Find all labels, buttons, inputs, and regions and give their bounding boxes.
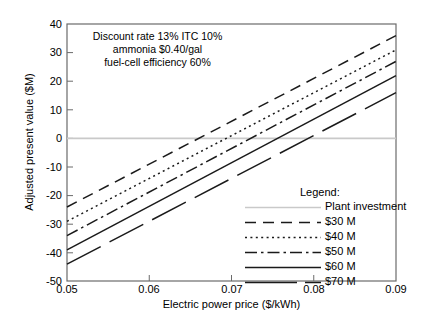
y-tick-marks [67,53,73,253]
legend-label: $50 M [325,245,356,257]
plot-frame [67,24,396,281]
legend-label: Plant investment [325,200,406,212]
legend-label: $70 M [325,275,356,287]
legend-label: $30 M [325,215,356,227]
chart-figure: Adjusted present value ($M) 40 30 20 10 … [0,0,421,322]
legend-swatch-40m [245,236,321,239]
legend-swatch-70m [245,281,321,284]
legend-label: $40 M [325,230,356,242]
legend-swatch-50m [245,251,321,254]
legend-title: Legend: [300,186,340,198]
series-line-40m [67,50,396,221]
legend-swatch-30m [245,221,321,224]
legend-swatch-60m [245,266,321,269]
plot-canvas [0,0,421,322]
legend-swatch-plant-investment [245,206,321,209]
series-line-30m [67,36,396,207]
legend-label: $60 M [325,260,356,272]
